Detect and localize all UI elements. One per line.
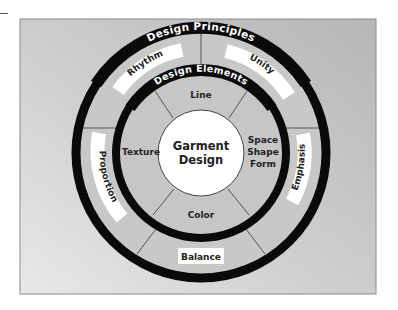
element-texture: Texture bbox=[122, 147, 160, 157]
element-color: Color bbox=[188, 210, 215, 220]
center-title-line2: Design bbox=[179, 153, 224, 167]
design-diagram: Design Principles Design Elements Rhythm… bbox=[0, 0, 398, 310]
element-shape: Shape bbox=[247, 147, 279, 157]
element-line: Line bbox=[190, 90, 211, 100]
element-form: Form bbox=[250, 159, 276, 169]
center-title-line1: Garment bbox=[173, 139, 230, 153]
principle-balance: Balance bbox=[181, 252, 221, 262]
element-space: Space bbox=[248, 135, 278, 145]
